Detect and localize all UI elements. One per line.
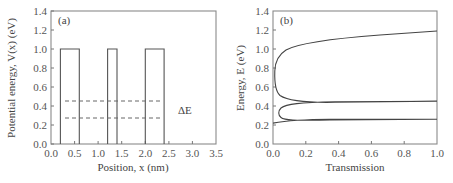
figure: 0.0 0.2 0.4 0.6 0.8 1.0 1.2 1.4 0.0 0.5 … — [0, 0, 453, 183]
svg-text:0.6: 0.6 — [255, 81, 269, 93]
plot-frame-a — [51, 11, 216, 144]
svg-text:1.0: 1.0 — [33, 43, 47, 55]
svg-text:3.5: 3.5 — [209, 147, 223, 159]
svg-text:0.6: 0.6 — [365, 147, 379, 159]
svg-text:0.0: 0.0 — [266, 147, 280, 159]
svg-text:0.4: 0.4 — [255, 100, 269, 112]
svg-text:0.8: 0.8 — [255, 62, 269, 74]
svg-text:0.2: 0.2 — [255, 119, 269, 131]
x-tick-labels-b: 0.0 0.2 0.4 0.6 0.8 1.0 — [266, 147, 444, 159]
barrier-1 — [60, 49, 79, 144]
y-tick-labels-b: 0.0 0.2 0.4 0.6 0.8 1.0 1.2 1.4 — [255, 5, 269, 150]
svg-text:1.0: 1.0 — [255, 43, 269, 55]
panel-tag-b: (b) — [280, 14, 293, 27]
svg-text:1.2: 1.2 — [255, 24, 269, 36]
svg-text:0.2: 0.2 — [299, 147, 313, 159]
svg-text:0.2: 0.2 — [33, 119, 47, 131]
svg-text:1.5: 1.5 — [115, 147, 129, 159]
svg-text:1.0: 1.0 — [430, 147, 444, 159]
svg-text:1.0: 1.0 — [91, 147, 105, 159]
svg-text:1.2: 1.2 — [33, 24, 47, 36]
svg-text:2.5: 2.5 — [162, 147, 176, 159]
svg-text:1.4: 1.4 — [33, 5, 47, 17]
barrier-3 — [145, 49, 164, 144]
barrier-2 — [108, 49, 117, 144]
delta-e-annotation: ΔE — [178, 104, 192, 116]
y-axis-label-a: Potential energy, V(x) (eV) — [5, 18, 18, 138]
svg-text:2.0: 2.0 — [138, 147, 152, 159]
svg-text:0.5: 0.5 — [68, 147, 82, 159]
plot-frame-b — [273, 11, 437, 144]
panel-b: 0.0 0.2 0.4 0.6 0.8 1.0 1.2 1.4 0.0 0.2 … — [234, 5, 444, 173]
svg-text:3.0: 3.0 — [186, 147, 200, 159]
panel-tag-a: (a) — [58, 14, 71, 27]
potential-barriers — [60, 49, 164, 144]
svg-text:0.6: 0.6 — [33, 81, 47, 93]
svg-text:0.8: 0.8 — [397, 147, 411, 159]
svg-text:0.4: 0.4 — [33, 100, 47, 112]
x-axis-label-a: Position, x (nm) — [97, 161, 169, 174]
svg-text:0.8: 0.8 — [33, 62, 47, 74]
x-tick-labels-a: 0.0 0.5 1.0 1.5 2.0 2.5 3.0 3.5 — [44, 147, 223, 159]
y-tick-labels-a: 0.0 0.2 0.4 0.6 0.8 1.0 1.2 1.4 — [33, 5, 47, 150]
panel-a: 0.0 0.2 0.4 0.6 0.8 1.0 1.2 1.4 0.0 0.5 … — [5, 5, 223, 174]
svg-text:0.0: 0.0 — [44, 147, 58, 159]
svg-text:0.4: 0.4 — [332, 147, 346, 159]
transmission-curve — [273, 31, 437, 123]
y-axis-label-b: Energy, E (eV) — [234, 45, 247, 111]
x-axis-label-b: Transmission — [326, 161, 385, 173]
svg-text:1.4: 1.4 — [255, 5, 269, 17]
